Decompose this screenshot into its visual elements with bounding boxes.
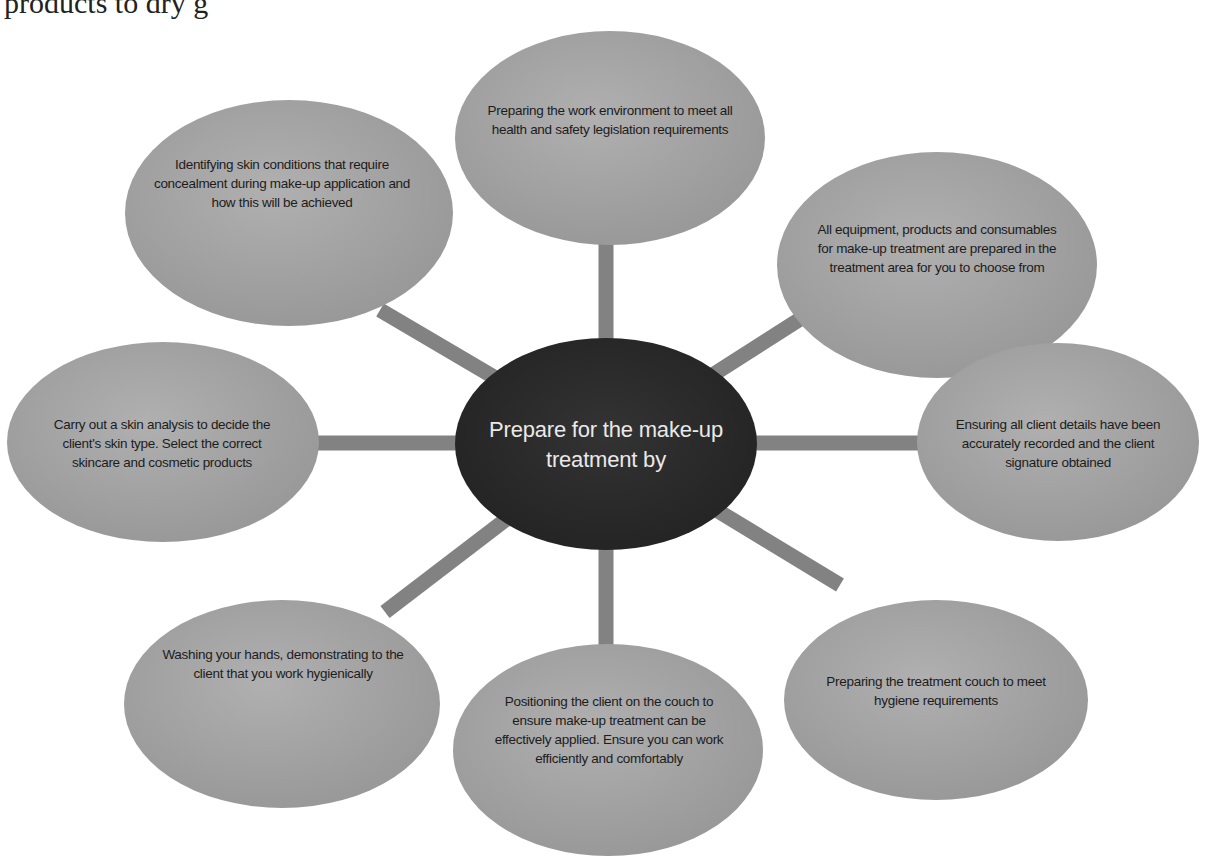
- node-bottom-label: Positioning the client on the couch to e…: [486, 680, 732, 780]
- node-bottom-left-label: Washing your hands, demonstrating to the…: [158, 640, 408, 688]
- node-left-label: Carry out a skin analysis to decide the …: [44, 410, 280, 476]
- node-bottom-right-label: Preparing the treatment couch to meet hy…: [820, 667, 1052, 715]
- node-top-label: Preparing the work environment to meet a…: [487, 80, 733, 160]
- center-node-label: Prepare for the make-up treatment by: [476, 400, 736, 490]
- node-top-left-label: Identifying skin conditions that require…: [146, 150, 418, 216]
- node-top-right-label: All equipment, products and consumables …: [817, 198, 1057, 298]
- node-bottom-left-shape: [124, 600, 440, 808]
- node-right-label: Ensuring all client details have been ac…: [945, 410, 1171, 476]
